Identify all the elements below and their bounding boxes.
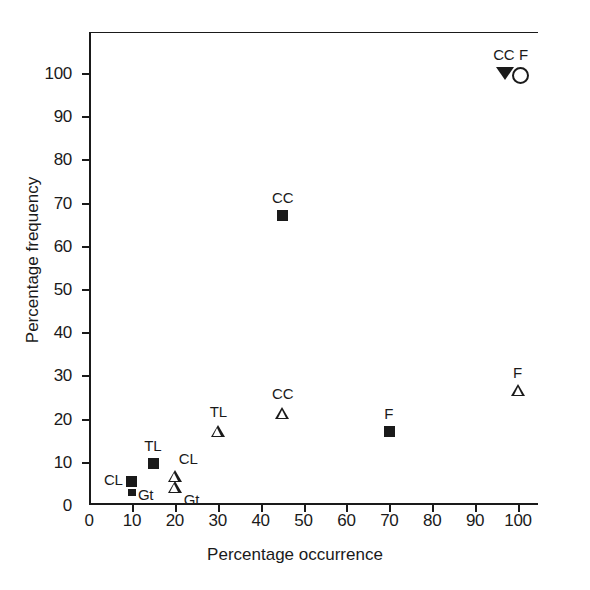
filled-square-marker (126, 476, 137, 487)
y-axis-tick-label: 90 (28, 108, 72, 125)
data-point-label: CC (493, 47, 514, 62)
data-point-label: CC (272, 386, 293, 401)
y-axis-tick (82, 203, 91, 205)
x-axis-tick-label: 50 (284, 512, 324, 529)
data-point-label: CC (272, 190, 293, 205)
data-point-label: TL (210, 404, 227, 419)
filled-square-marker (384, 426, 395, 437)
y-axis-tick-label: 10 (28, 454, 72, 471)
y-axis-tick (82, 332, 91, 334)
y-axis-tick (82, 462, 91, 464)
y-axis-title: Percentage frequency (23, 135, 43, 385)
x-axis-tick-label: 100 (498, 512, 538, 529)
x-axis-tick-label: 60 (326, 512, 366, 529)
y-axis-tick (82, 116, 91, 118)
y-axis-tick (82, 159, 91, 161)
filled-square-marker (148, 458, 159, 469)
y-axis-tick-label: 0 (20, 497, 72, 514)
y-axis-tick (82, 73, 91, 75)
small-filled-square-marker (128, 489, 136, 496)
x-axis-tick-label: 20 (155, 512, 195, 529)
x-axis-tick-label: 40 (241, 512, 281, 529)
y-axis-tick-label: 100 (28, 65, 72, 82)
y-axis-tick-label: 20 (28, 411, 72, 428)
data-point-label: F (519, 47, 528, 62)
x-axis-title: Percentage occurrence (0, 545, 590, 565)
filled-square-marker (277, 210, 288, 221)
x-axis-tick-label: 30 (198, 512, 238, 529)
scatter-chart-figure: 0102030405060708090100 01020304050607080… (0, 0, 590, 590)
data-point-label: Gt (184, 492, 199, 507)
data-point-label: F (384, 406, 393, 421)
open-triangle-marker (275, 407, 289, 419)
y-axis-tick (82, 419, 91, 421)
data-point-label: CL (104, 472, 123, 487)
open-triangle-marker (511, 384, 525, 396)
plot-area (89, 32, 538, 505)
data-point-label: TL (144, 438, 161, 453)
x-axis-tick-label: 70 (369, 512, 409, 529)
y-axis-tick (82, 246, 91, 248)
x-axis-tick-label: 80 (412, 512, 452, 529)
open-triangle-marker (211, 425, 225, 437)
data-point-label: F (513, 365, 522, 380)
data-point-label: Gt (138, 487, 153, 502)
open-circle-marker (512, 67, 529, 84)
x-axis-tick-label: 10 (112, 512, 152, 529)
y-axis-tick (82, 375, 91, 377)
y-axis-tick (82, 289, 91, 291)
x-axis-tick-label: 0 (69, 512, 109, 529)
data-point-label: CL (179, 451, 198, 466)
x-axis-tick-label: 90 (455, 512, 495, 529)
open-triangle-marker (168, 481, 182, 493)
plot-frame-top-right-segment (534, 32, 538, 33)
